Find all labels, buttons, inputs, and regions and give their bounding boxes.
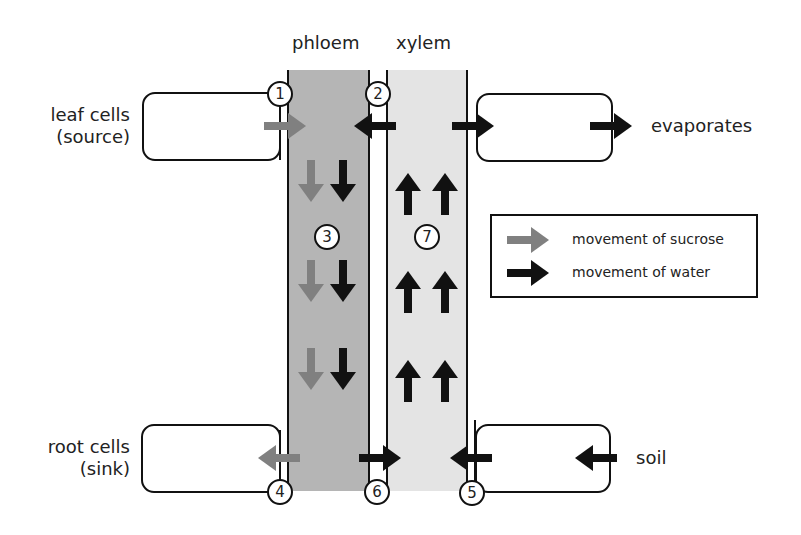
phloem-column	[288, 70, 369, 491]
leaf-cell-box	[143, 93, 280, 160]
leaf-cells-label: leaf cells (source)	[44, 104, 130, 148]
marker-2: 2	[365, 81, 391, 107]
evaporates-label: evaporates	[651, 115, 752, 137]
leaf-cells-line1: leaf cells	[44, 104, 130, 126]
marker-4: 4	[267, 479, 293, 505]
root-cells-line2: (sink)	[34, 458, 130, 480]
marker-1: 1	[267, 81, 293, 107]
phloem-label: phloem	[292, 32, 359, 54]
xylem-column	[387, 70, 467, 491]
xylem-label: xylem	[396, 32, 451, 54]
marker-7: 7	[414, 224, 440, 250]
legend-water-label: movement of water	[572, 264, 710, 280]
leaf-cells-line2: (source)	[44, 126, 130, 148]
marker-6: 6	[364, 479, 390, 505]
marker-3: 3	[314, 224, 340, 250]
root-cells-label: root cells (sink)	[34, 436, 130, 480]
root-cells-line1: root cells	[34, 436, 130, 458]
legend-sucrose-label: movement of sucrose	[572, 231, 724, 247]
marker-5: 5	[459, 480, 485, 506]
soil-label: soil	[636, 447, 666, 469]
legend-box	[491, 215, 757, 297]
